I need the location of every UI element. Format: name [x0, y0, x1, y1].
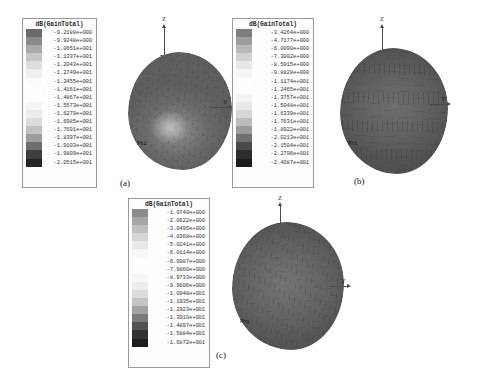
legend-swatch [236, 61, 252, 69]
legend-tick-label: -1.6339e+001 [252, 110, 310, 118]
y-axis-label-a: Y [223, 98, 228, 105]
legend-tick-label: -1.6279e+001 [42, 110, 93, 118]
legend-tick-labels-b: -3.4264e+000-4.7177e+000-6.0090e+000-7.3… [252, 29, 310, 167]
radiation-plot-a: Z Theta Y Phi [110, 14, 235, 184]
legend-tick-label: -2.0213e+001 [252, 134, 310, 142]
legend-swatch [132, 241, 148, 249]
legend-tick-label: -1.6872e+001 [148, 339, 206, 347]
legend-swatch [26, 78, 42, 86]
legend-tick-label: -9.8828e+000 [252, 69, 310, 77]
legend-tick-label: -1.3910e+001 [148, 314, 206, 322]
legend-tick-label: -1.5048e+001 [252, 102, 310, 110]
legend-tick-label: -2.4087e+001 [252, 159, 310, 167]
legend-swatch [236, 110, 252, 118]
legend-tick-label: -1.4867e+001 [42, 94, 93, 102]
legend-swatch [236, 134, 252, 142]
legend-tick-label: -1.2749e+001 [42, 69, 93, 77]
legend-swatch [132, 306, 148, 314]
legend-tick-label: -8.5915e+000 [252, 61, 310, 69]
legend-tick-label: -1.0948e+001 [148, 290, 206, 298]
legend-tick-label: -1.0740e+000 [148, 209, 206, 217]
panel-a: dB(GainTotal) -9.2188e+000-9.9248e+000-1… [0, 0, 240, 195]
panel-c: dB(GainTotal) -1.0740e+000-2.0622e+000-3… [110, 190, 400, 379]
phi-annotation-a: Phi [137, 140, 146, 147]
legend-colorbar-c [132, 209, 148, 347]
legend-tick-label: -1.1337e+001 [42, 53, 93, 61]
legend-swatch [26, 94, 42, 102]
legend-swatch [236, 78, 252, 86]
y-axis-label-b: Y [441, 95, 446, 102]
legend-c: dB(GainTotal) -1.0740e+000-2.0622e+000-3… [128, 198, 210, 368]
legend-swatch [132, 249, 148, 257]
legend-tick-label: -3.4264e+000 [252, 29, 310, 37]
legend-swatch [26, 69, 42, 77]
legend-tick-label: -5.0241e+000 [148, 241, 206, 249]
legend-swatch [236, 142, 252, 150]
legend-swatch [132, 314, 148, 322]
legend-tick-labels-c: -1.0740e+000-2.0622e+000-3.0495e+000-4.0… [148, 209, 206, 347]
legend-swatch [26, 53, 42, 61]
legend-swatch [132, 298, 148, 306]
legend-swatch [236, 86, 252, 94]
legend-tick-label: -1.0651e+001 [42, 45, 93, 53]
legend-b: dB(GainTotal) -3.4264e+000-4.7177e+000-6… [232, 18, 314, 188]
caption-a: (a) [120, 178, 130, 188]
legend-swatch [132, 258, 148, 266]
z-axis-arrow-b [380, 24, 384, 28]
legend-tick-label: -1.1174e+001 [252, 78, 310, 86]
legend-tick-label: -1.3757e+001 [252, 94, 310, 102]
y-axis-line-c [330, 286, 348, 287]
pattern-surface-b [340, 48, 448, 174]
legend-tick-label: -1.2465e+001 [252, 86, 310, 94]
legend-colorbar-b [236, 29, 252, 167]
legend-swatch [26, 159, 42, 167]
legend-swatch [26, 110, 42, 118]
legend-title-b: dB(GainTotal) [236, 21, 310, 29]
panel-b: dB(GainTotal) -3.4264e+000-4.7177e+000-6… [228, 0, 477, 195]
legend-tick-label: -2.2796e+001 [252, 150, 310, 158]
legend-tick-label: -1.7691e+001 [42, 126, 93, 134]
legend-tick-label: -6.0090e+000 [252, 45, 310, 53]
legend-swatch [26, 29, 42, 37]
legend-tick-label: -9.9248e+000 [42, 37, 93, 45]
legend-swatch [132, 330, 148, 338]
legend-tick-label: -8.9733e+000 [148, 274, 206, 282]
legend-tick-label: -1.5573e+001 [42, 102, 93, 110]
legend-tick-label: -1.6985e+001 [42, 118, 93, 126]
legend-tick-label: -1.2043e+001 [42, 61, 93, 69]
legend-swatch [132, 217, 148, 225]
legend-swatch [26, 150, 42, 158]
legend-tick-label: -6.0114e+000 [148, 249, 206, 257]
legend-swatch [236, 118, 252, 126]
legend-swatch [132, 225, 148, 233]
pattern-mesh-c [232, 222, 344, 350]
legend-tick-label: -6.9987e+000 [148, 258, 206, 266]
y-axis-arrow-c [347, 284, 351, 288]
legend-swatch [26, 126, 42, 134]
legend-tick-label: -7.3002e+000 [252, 53, 310, 61]
legend-swatch [26, 102, 42, 110]
phi-annotation-c: Phi [240, 318, 249, 325]
legend-swatch [132, 274, 148, 282]
legend-swatch [26, 142, 42, 150]
legend-swatch [132, 339, 148, 347]
legend-tick-label: -1.8397e+001 [42, 134, 93, 142]
phi-annotation-b: Phi [348, 140, 357, 147]
legend-tick-label: -3.0495e+000 [148, 225, 206, 233]
legend-swatch [132, 290, 148, 298]
legend-swatch [26, 45, 42, 53]
legend-swatch [236, 45, 252, 53]
legend-swatch [132, 209, 148, 217]
legend-swatch [26, 61, 42, 69]
legend-tick-labels-a: -9.2188e+000-9.9248e+000-1.0651e+001-1.1… [42, 29, 93, 167]
legend-swatch [236, 150, 252, 158]
y-axis-arrow-b [447, 102, 451, 106]
legend-swatch [236, 159, 252, 167]
legend-title-a: dB(GainTotal) [26, 21, 93, 29]
legend-title-c: dB(GainTotal) [132, 201, 206, 209]
caption-b: (b) [354, 176, 365, 186]
legend-swatch [132, 282, 148, 290]
legend-swatch [236, 37, 252, 45]
legend-swatch [236, 69, 252, 77]
legend-tick-label: -1.8922e+001 [252, 126, 310, 134]
